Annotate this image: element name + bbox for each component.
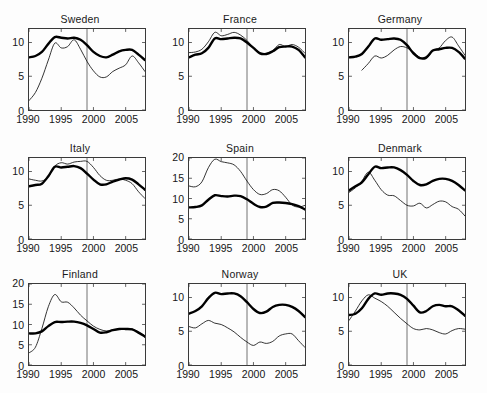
x-axis-tick-label: 1990 bbox=[336, 368, 359, 380]
x-axis-tick-label: 2005 bbox=[435, 368, 458, 380]
figure-canvas: Sweden05101990199520002005France05101990… bbox=[0, 0, 487, 393]
plot-area bbox=[348, 283, 466, 366]
x-axis-tick-label: 2000 bbox=[402, 368, 425, 380]
chart-panel: UK05101990199520002005 bbox=[0, 0, 487, 393]
x-axis-tick-label: 1995 bbox=[369, 368, 392, 380]
y-axis-tick-label: 10 bbox=[318, 292, 344, 303]
y-axis-tick-label: 5 bbox=[318, 326, 344, 337]
panel-title: UK bbox=[320, 268, 480, 280]
